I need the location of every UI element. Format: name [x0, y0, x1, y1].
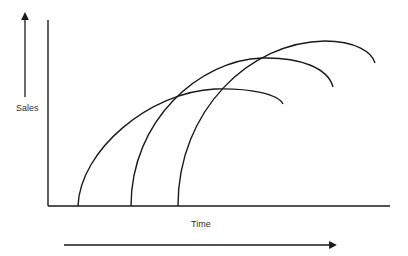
y-axis-label: Sales: [16, 103, 39, 113]
curve-3: [178, 41, 375, 206]
curve-1: [78, 89, 283, 206]
x-axis-label: Time: [191, 219, 211, 229]
diagram-canvas: [0, 0, 408, 256]
